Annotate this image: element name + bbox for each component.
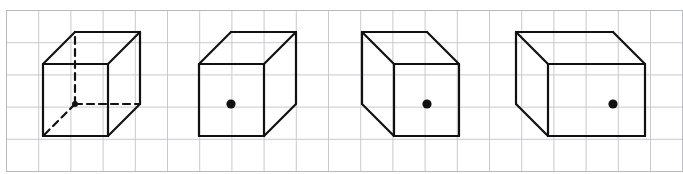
front-face-dot — [226, 99, 235, 108]
hidden-vertex-marker — [72, 101, 78, 107]
cube-figures-diagram — [0, 0, 683, 174]
background — [0, 0, 683, 174]
front-face-dot — [422, 99, 431, 108]
figure-container — [0, 0, 683, 174]
front-face-dot — [608, 99, 617, 108]
